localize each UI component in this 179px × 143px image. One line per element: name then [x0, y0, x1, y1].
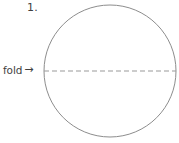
fold-label: fold → [3, 63, 34, 77]
step-number-label: 1. [27, 1, 38, 14]
fold-label-text: fold [3, 63, 22, 77]
right-arrow-icon: → [24, 63, 33, 77]
fold-diagram-figure: 1. fold → [0, 0, 179, 143]
